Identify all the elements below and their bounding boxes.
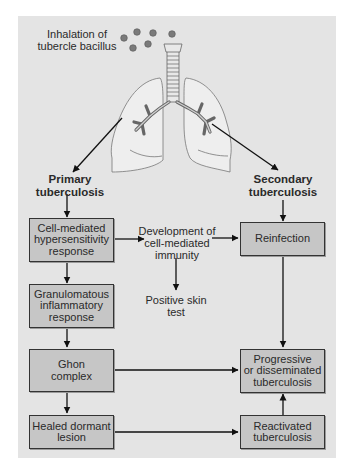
secondary-tb-label: Secondary tuberculosis [236,173,330,199]
immunity-text: Development of cell-mediated immunity [136,225,218,261]
node-reactivated-tb: Reactivated tuberculosis [240,415,325,449]
node-granulomatous-inflammatory: Granulomatous inflammatory response [29,284,114,328]
node-cell-mediated-hypersensitivity: Cell-mediated hypersensitivity response [29,218,114,262]
skin-test-text: Positive skin test [138,294,214,318]
node-progressive-disseminated: Progressive or disseminated tuberculosis [240,349,325,393]
inhalation-label: Inhalation of tubercle bacillus [36,28,118,52]
primary-tb-label: Primary tuberculosis [28,173,112,199]
node-reinfection: Reinfection [240,222,325,256]
node-healed-dormant-lesion: Healed dormant lesion [29,415,114,449]
lungs-icon [111,44,231,172]
node-ghon-complex: Ghon complex [29,349,114,392]
